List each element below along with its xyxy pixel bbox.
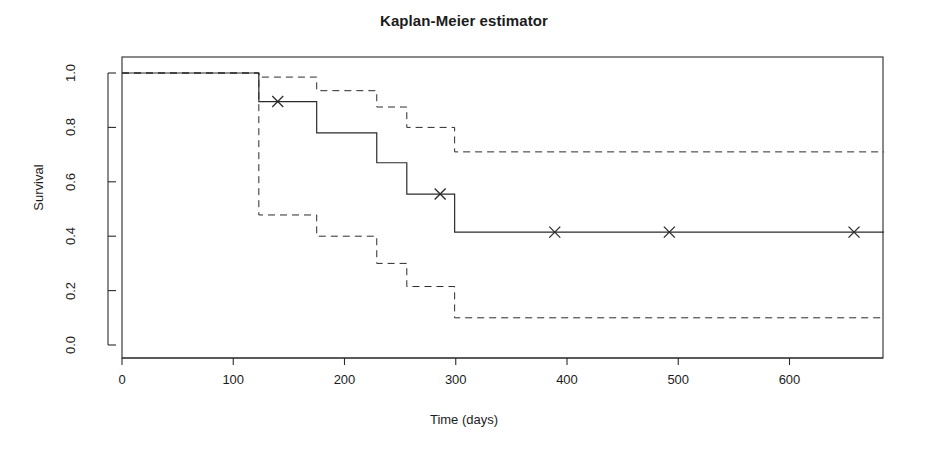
plot-frame — [122, 57, 883, 358]
kaplan-meier-figure: Kaplan-Meier estimator Survival Time (da… — [0, 0, 928, 456]
plot-box — [122, 57, 883, 358]
axis-ticks — [108, 73, 883, 365]
censoring-marks — [272, 96, 859, 238]
plot-area — [0, 0, 928, 456]
survival-curves — [122, 73, 884, 318]
series-1 — [122, 73, 884, 152]
series-2 — [122, 73, 884, 318]
series-0 — [122, 73, 884, 232]
